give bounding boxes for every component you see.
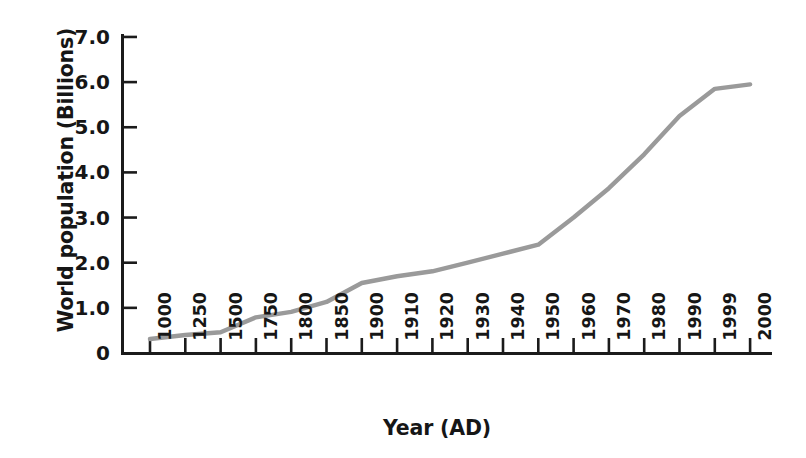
x-tick-label: 1250 xyxy=(192,292,210,362)
x-tick-label: 1500 xyxy=(228,292,246,362)
x-tick-label: 1940 xyxy=(510,292,528,362)
x-tick-label: 1750 xyxy=(263,292,281,362)
x-tick-label: 2000 xyxy=(757,292,775,362)
x-axis-title: Year (AD) xyxy=(0,416,806,440)
x-tick-label: 1990 xyxy=(687,292,705,362)
x-axis-title-text: Year (AD) xyxy=(383,416,491,440)
x-tick-label: 1900 xyxy=(369,292,387,362)
x-tick-label: 1910 xyxy=(404,292,422,362)
x-tick-label: 1000 xyxy=(157,292,175,362)
x-tick-label: 1930 xyxy=(475,292,493,362)
x-tick-label: 1970 xyxy=(616,292,634,362)
x-tick-label: 1850 xyxy=(334,292,352,362)
x-tick-label: 1800 xyxy=(298,292,316,362)
population-line-chart: World population (Billions) 7.06.05.04.0… xyxy=(0,0,806,458)
x-tick-label-group: 1000125015001750180018501900191019201930… xyxy=(0,0,806,458)
x-tick-label: 1950 xyxy=(545,292,563,362)
x-tick-label: 1960 xyxy=(581,292,599,362)
x-tick-label: 1980 xyxy=(651,292,669,362)
x-tick-label: 1999 xyxy=(722,292,740,362)
x-tick-label: 1920 xyxy=(439,292,457,362)
